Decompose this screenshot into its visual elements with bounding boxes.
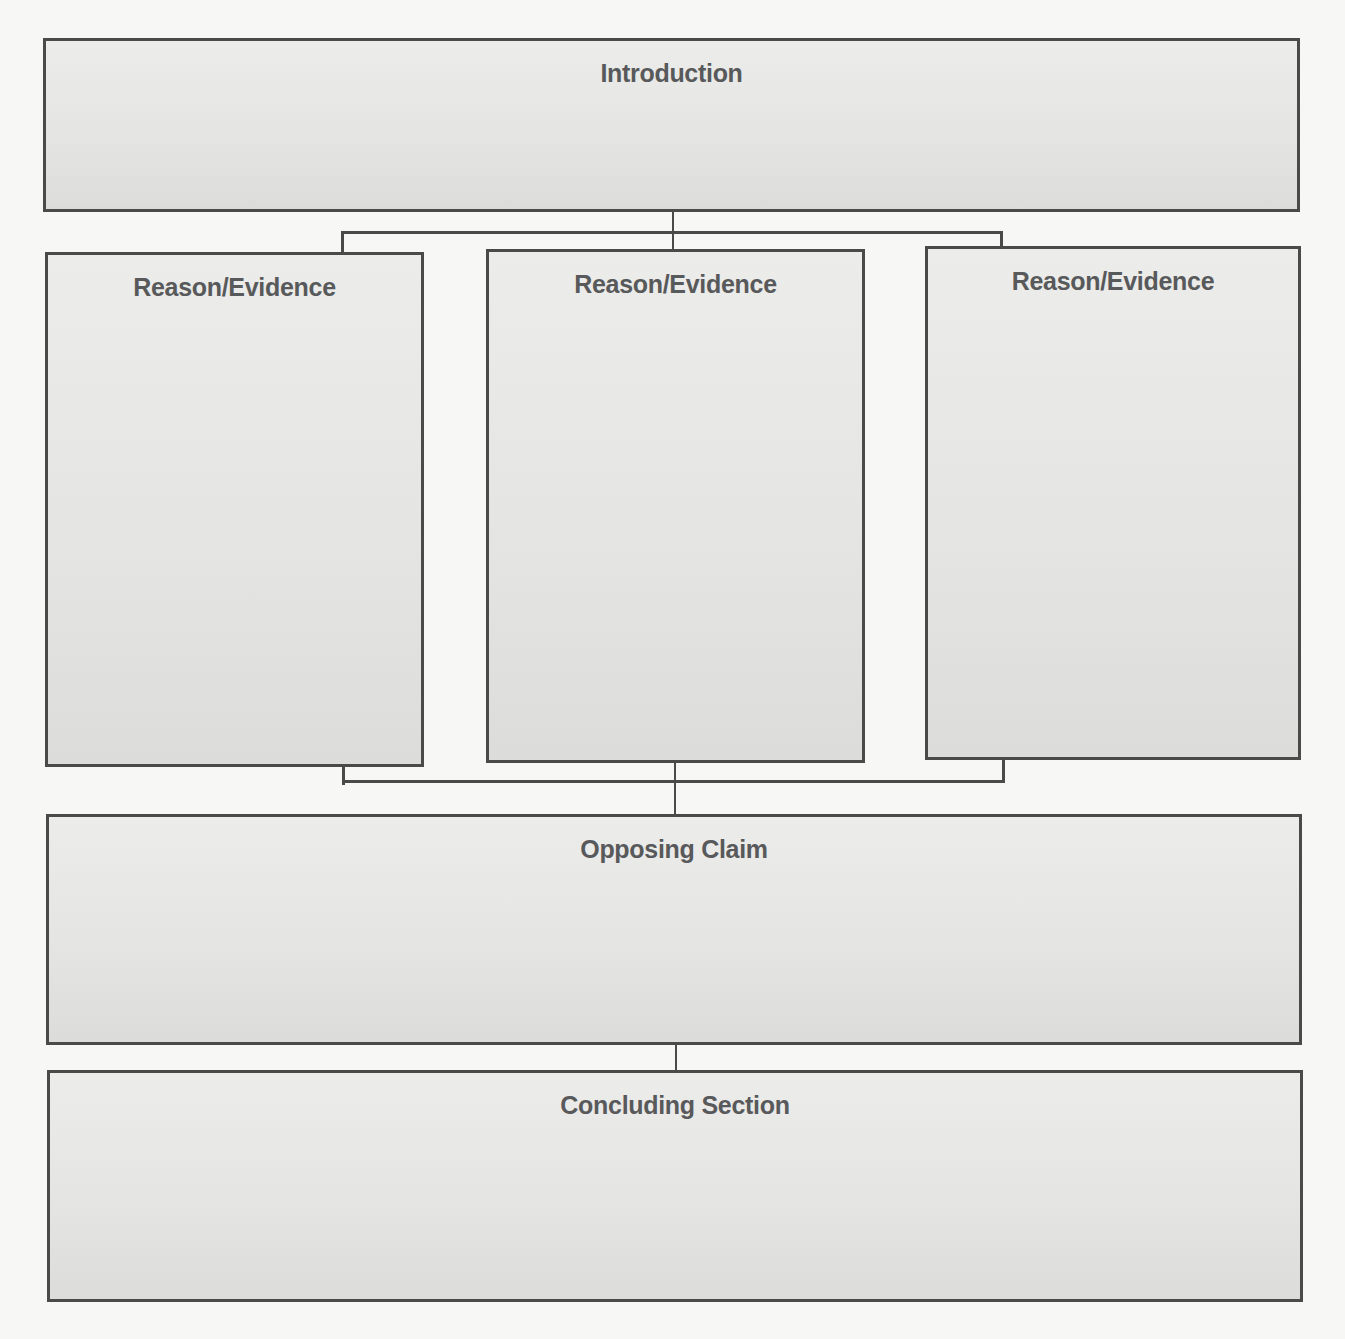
connector-from-reason-2 <box>674 762 676 816</box>
concluding-section-box: Concluding Section <box>47 1070 1303 1302</box>
connector-intro-down <box>672 210 674 250</box>
connector-opposing-to-conclusion <box>675 1043 677 1073</box>
introduction-title: Introduction <box>46 59 1297 88</box>
introduction-box: Introduction <box>43 38 1300 212</box>
connector-to-reason-1 <box>341 231 344 254</box>
reason-evidence-title-3: Reason/Evidence <box>928 267 1298 296</box>
reason-evidence-box-1: Reason/Evidence <box>45 252 424 767</box>
reason-evidence-title-2: Reason/Evidence <box>489 270 862 299</box>
reason-evidence-box-2: Reason/Evidence <box>486 249 865 763</box>
concluding-section-title: Concluding Section <box>50 1091 1300 1120</box>
opposing-claim-title: Opposing Claim <box>49 835 1299 864</box>
connector-from-reason-3 <box>1002 758 1005 781</box>
connector-intro-horizontal <box>341 231 1003 234</box>
reason-evidence-title-1: Reason/Evidence <box>48 273 421 302</box>
opposing-claim-box: Opposing Claim <box>46 814 1302 1045</box>
reason-evidence-box-3: Reason/Evidence <box>925 246 1301 760</box>
